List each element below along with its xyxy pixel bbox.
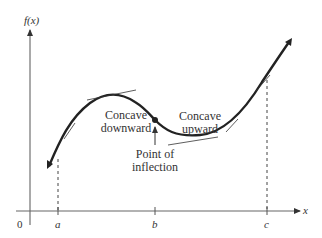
tangent-trough xyxy=(168,137,218,145)
tangent-right xyxy=(256,75,270,91)
x-axis-label: x xyxy=(303,204,308,216)
concave-up-label: Concave upward xyxy=(170,110,230,136)
concave-down-label: Concave downward xyxy=(96,109,156,135)
origin-label: 0 xyxy=(17,218,23,230)
tick-label-b: b xyxy=(152,218,158,230)
tick-label-a: a xyxy=(55,218,61,230)
tick-label-c: c xyxy=(264,218,269,230)
concavity-diagram xyxy=(0,0,322,238)
y-axis-label: f(x) xyxy=(24,14,39,26)
inflection-label: Point of inflection xyxy=(124,148,186,174)
